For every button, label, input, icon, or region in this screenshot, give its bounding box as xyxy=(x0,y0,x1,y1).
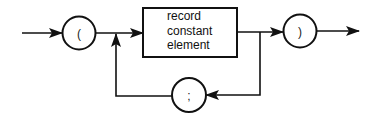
box-label-line-record: record xyxy=(167,9,212,24)
syntax-diagram: ( ) ; record constant element xyxy=(0,0,378,121)
open-paren-terminal: ( xyxy=(63,17,96,50)
svg-text:(: ( xyxy=(77,27,81,41)
svg-text:): ) xyxy=(298,25,302,39)
box-label: record constant element xyxy=(167,9,212,53)
box-label-line-element: element xyxy=(167,38,212,53)
box-label-line-constant: constant xyxy=(167,24,212,39)
close-paren-terminal: ) xyxy=(284,15,317,48)
semicolon-terminal: ; xyxy=(172,78,206,112)
svg-text:;: ; xyxy=(187,89,190,103)
